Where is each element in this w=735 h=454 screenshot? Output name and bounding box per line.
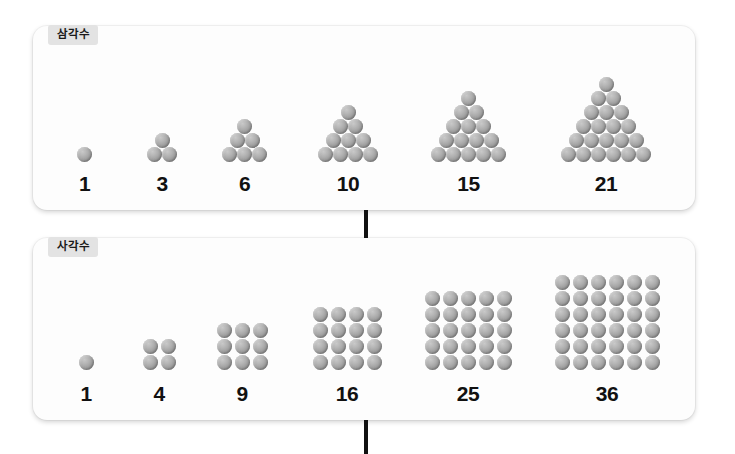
dot	[469, 105, 484, 120]
dot	[645, 323, 660, 338]
connector-bar-bottom	[364, 420, 368, 454]
dot	[573, 339, 588, 354]
dot	[497, 355, 512, 370]
dot	[331, 355, 346, 370]
dot-row	[155, 133, 170, 148]
dot-group: 1	[77, 147, 92, 194]
dot	[461, 119, 476, 134]
dot-row	[311, 339, 383, 354]
dot	[222, 147, 237, 162]
dot	[484, 133, 499, 148]
dot	[367, 323, 382, 338]
dot-figure	[318, 105, 378, 161]
dot	[252, 147, 267, 162]
dot	[627, 275, 642, 290]
dot-row	[326, 133, 371, 148]
dot	[237, 119, 252, 134]
dot-row	[446, 119, 491, 134]
dot-row	[454, 105, 484, 120]
dot	[629, 133, 644, 148]
dot	[446, 119, 461, 134]
dot	[235, 339, 250, 354]
group-caption: 6	[239, 173, 250, 194]
dot	[479, 323, 494, 338]
dot	[235, 355, 250, 370]
dot	[230, 133, 245, 148]
group-caption: 16	[336, 383, 358, 404]
dot	[609, 355, 624, 370]
dot	[627, 339, 642, 354]
dot-row	[311, 323, 383, 338]
dot	[627, 323, 642, 338]
dot	[313, 323, 328, 338]
dot	[599, 77, 614, 92]
group-caption: 3	[156, 173, 167, 194]
dot	[645, 339, 660, 354]
group-caption: 21	[595, 173, 617, 194]
dot	[614, 133, 629, 148]
group-caption: 9	[236, 383, 247, 404]
dot-row	[423, 291, 513, 306]
dot	[569, 133, 584, 148]
dot	[645, 291, 660, 306]
dot-row	[553, 355, 661, 370]
dot-group: 36	[553, 275, 661, 404]
dot-row	[553, 323, 661, 338]
dot	[341, 105, 356, 120]
dot-row	[77, 147, 92, 162]
dot	[491, 147, 506, 162]
dot	[573, 291, 588, 306]
dot	[253, 355, 268, 370]
dot	[591, 91, 606, 106]
dot	[584, 133, 599, 148]
dot	[348, 147, 363, 162]
dot	[561, 147, 576, 162]
dot	[161, 339, 176, 354]
dot	[367, 307, 382, 322]
dot	[555, 307, 570, 322]
dot	[349, 323, 364, 338]
dot	[497, 339, 512, 354]
dot-figure	[222, 119, 267, 161]
dot	[349, 355, 364, 370]
dot	[476, 119, 491, 134]
figure-stage: 삼각수 136101521 사각수 149162536	[0, 0, 735, 454]
dot	[627, 355, 642, 370]
dot-row	[423, 323, 513, 338]
dot-row	[461, 91, 476, 106]
dot-figure	[311, 307, 383, 371]
dot-row	[77, 355, 95, 370]
dot	[341, 133, 356, 148]
dot	[576, 147, 591, 162]
dot-group: 15	[431, 91, 506, 194]
dot	[627, 291, 642, 306]
dot	[606, 91, 621, 106]
dot	[461, 307, 476, 322]
dot-row	[423, 355, 513, 370]
dot	[497, 291, 512, 306]
dot-figure	[141, 339, 177, 371]
dot-row	[553, 291, 661, 306]
dot	[461, 355, 476, 370]
dot	[645, 275, 660, 290]
dot-figure	[147, 133, 177, 161]
dot	[77, 147, 92, 162]
dot	[425, 323, 440, 338]
dot	[356, 133, 371, 148]
dot	[479, 355, 494, 370]
dot	[636, 147, 651, 162]
dot	[573, 323, 588, 338]
dot	[143, 355, 158, 370]
dot	[461, 323, 476, 338]
dot	[469, 133, 484, 148]
dot	[591, 355, 606, 370]
dot	[245, 133, 260, 148]
dot	[627, 307, 642, 322]
dot	[161, 355, 176, 370]
group-caption: 1	[79, 173, 90, 194]
panel-square-numbers: 사각수 149162536	[33, 238, 695, 420]
dot	[606, 147, 621, 162]
dot-figure	[431, 91, 506, 161]
panel-triangular-numbers: 삼각수 136101521	[33, 26, 695, 210]
dot	[367, 339, 382, 354]
